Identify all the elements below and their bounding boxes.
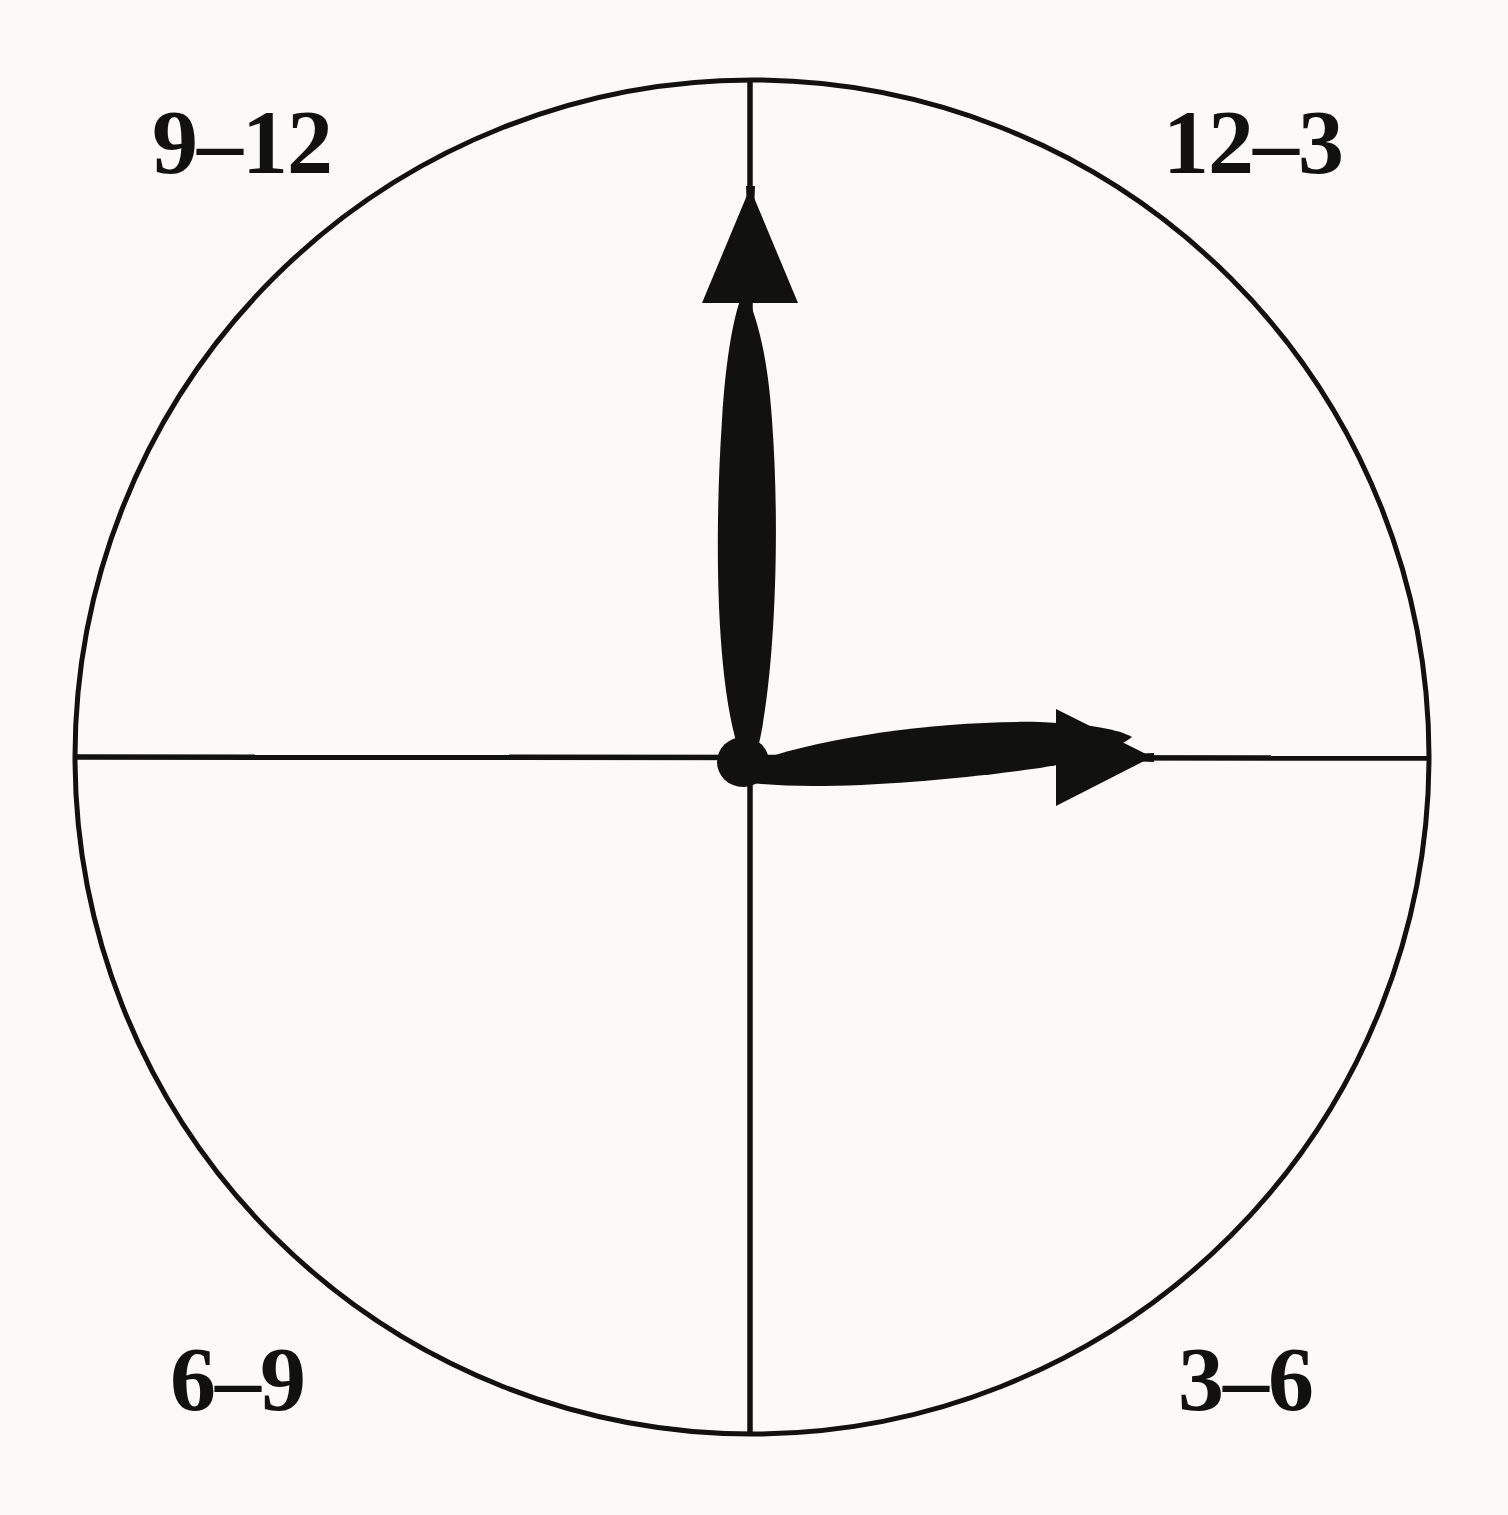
clock-face-diagram (0, 0, 1508, 1515)
clock-center-hub (717, 737, 769, 787)
minute-hand (702, 186, 798, 756)
clock-diagram-page: 9–12 12–3 6–9 3–6 (0, 0, 1508, 1515)
quadrant-label-bottom-left: 6–9 (170, 1333, 305, 1425)
quadrant-label-top-right: 12–3 (1163, 96, 1343, 188)
hour-hand (744, 709, 1154, 806)
quadrant-label-top-left: 9–12 (152, 96, 332, 188)
quadrant-label-bottom-right: 3–6 (1178, 1333, 1313, 1425)
minute-hand-body (718, 290, 776, 756)
